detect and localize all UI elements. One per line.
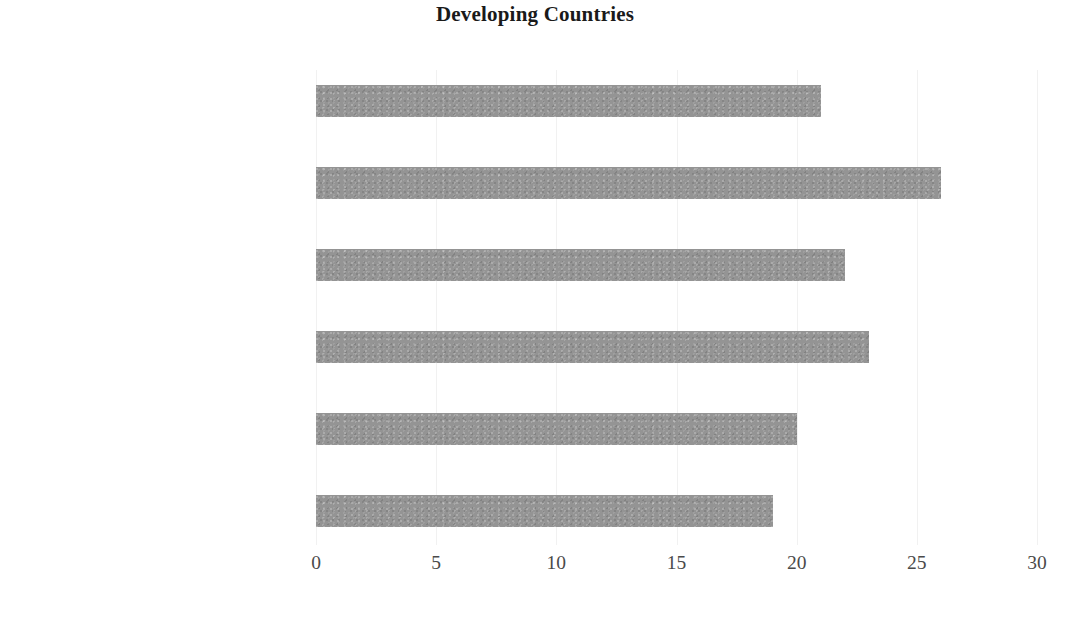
gridline	[797, 70, 798, 545]
x-axis-tick-label: 20	[767, 552, 827, 574]
bar-row	[316, 495, 1037, 527]
gridline	[917, 70, 918, 545]
bar[interactable]	[316, 495, 773, 527]
x-axis-tick-labels: 051015202530	[316, 552, 1037, 578]
plot-area	[316, 70, 1037, 545]
chart-title: Developing Countries	[0, 2, 1070, 27]
bar-row	[316, 167, 1037, 199]
chart-figure: Developing Countries 051015202530 Brazil…	[0, 0, 1070, 621]
x-axis-tick-label: 5	[406, 552, 466, 574]
bar[interactable]	[316, 167, 941, 199]
x-axis-tick-label: 10	[526, 552, 586, 574]
bar[interactable]	[316, 331, 869, 363]
bar-row	[316, 331, 1037, 363]
x-axis-tick-label: 15	[647, 552, 707, 574]
gridline	[556, 70, 557, 545]
bar-row	[316, 85, 1037, 117]
gridline	[677, 70, 678, 545]
gridline	[1037, 70, 1038, 545]
bar[interactable]	[316, 85, 821, 117]
bar-row	[316, 413, 1037, 445]
x-axis-tick-label: 30	[1007, 552, 1067, 574]
gridline	[436, 70, 437, 545]
bar[interactable]	[316, 413, 797, 445]
gridline	[316, 70, 317, 545]
x-axis-tick-label: 0	[286, 552, 346, 574]
bar[interactable]	[316, 249, 845, 281]
bar-row	[316, 249, 1037, 281]
x-axis-tick-label: 25	[887, 552, 947, 574]
